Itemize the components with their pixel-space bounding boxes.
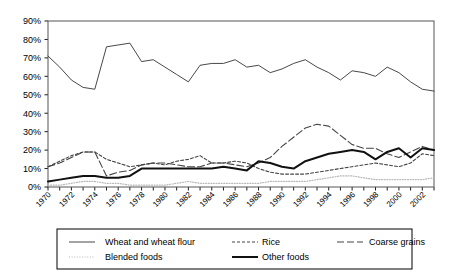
y-axis-tick-labels: 0%10%20%30%40%50%60%70%80%90%	[23, 16, 41, 192]
data-series-group	[48, 43, 434, 185]
x-axis-tick-label: 1980	[151, 190, 170, 209]
x-axis-tick-label: 1972	[57, 190, 76, 209]
legend-label-other-foods: Other foods	[262, 252, 310, 262]
legend-label-blended-foods: Blended foods	[105, 252, 163, 262]
x-axis-tick-label: 1992	[291, 190, 310, 209]
y-axis-tick-label: 80%	[23, 35, 41, 45]
y-axis-tick-label: 50%	[23, 90, 41, 100]
y-axis-tick-label: 20%	[23, 145, 41, 155]
x-axis-tick-label: 1982	[174, 190, 193, 209]
y-axis-tick-label: 0%	[28, 182, 41, 192]
x-axis-tick-label: 1994	[315, 190, 334, 209]
x-axis-tick-labels: 1970197219741976197819801982198419861988…	[34, 190, 428, 209]
x-axis-tick-label: 1978	[128, 190, 147, 209]
x-axis-tick-label: 1988	[245, 190, 264, 209]
x-axis-tick-label: 1974	[81, 190, 100, 209]
chart-container: 0%10%20%30%40%50%60%70%80%90% 1970197219…	[0, 0, 455, 275]
series-line-wheat-and-wheat-flour	[48, 43, 434, 91]
y-axis-tick-label: 90%	[23, 16, 41, 26]
legend-box: Wheat and wheat flourRiceCoarse grainsBl…	[57, 229, 426, 269]
legend-label-coarse-grains: Coarse grains	[369, 237, 426, 247]
x-axis-tick-label: 2000	[385, 190, 404, 209]
x-axis-tick-label: 1970	[34, 190, 53, 209]
x-axis-tick-label: 2002	[408, 190, 427, 209]
y-axis-tick-label: 40%	[23, 109, 41, 119]
y-axis-tick-label: 60%	[23, 72, 41, 82]
y-axis-tick-label: 70%	[23, 53, 41, 63]
line-chart: 0%10%20%30%40%50%60%70%80%90% 1970197219…	[0, 0, 455, 275]
x-axis-tick-label: 1986	[221, 190, 240, 209]
legend-border	[57, 229, 412, 269]
y-axis-tick-label: 10%	[23, 164, 41, 174]
y-axis-tick-label: 30%	[23, 127, 41, 137]
legend-label-wheat-and-wheat-flour: Wheat and wheat flour	[105, 237, 195, 247]
x-axis-tick-label: 1984	[198, 190, 217, 209]
x-axis-tick-label: 1990	[268, 190, 287, 209]
x-axis-tick-label: 1976	[104, 190, 123, 209]
series-line-other-foods	[48, 148, 434, 181]
legend-label-rice: Rice	[262, 237, 280, 247]
series-line-rice	[48, 152, 434, 174]
x-axis-tick-label: 1996	[338, 190, 357, 209]
series-line-coarse-grains	[48, 124, 434, 176]
x-axis-ticks	[48, 187, 434, 191]
x-axis-tick-label: 1998	[361, 190, 380, 209]
y-axis-ticks	[45, 21, 49, 187]
